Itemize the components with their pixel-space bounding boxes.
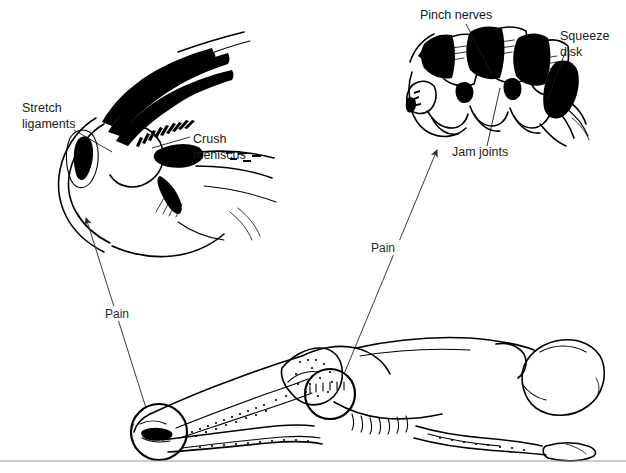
label-pain-spine: Pain [371,241,395,255]
label-pinch-nerves: Pinch nerves [420,8,492,22]
label-stretch-ligaments-line1: Stretch [22,101,62,115]
label-stretch-ligaments-line2: ligaments [22,117,76,131]
diagram-canvas: Stretch ligaments Crush meniscus [0,0,626,473]
label-pain-knee: Pain [105,307,129,321]
label-crush-meniscus-line2: meniscus [193,148,246,162]
label-squeeze-disk-line1: Squeeze [560,29,609,43]
label-squeeze-disk-line2: disk [560,45,583,59]
anatomical-figure-panel: Stretch ligaments Crush meniscus [0,0,626,473]
label-jam-joints: Jam joints [452,145,508,159]
label-crush-meniscus-line1: Crush [193,132,226,146]
